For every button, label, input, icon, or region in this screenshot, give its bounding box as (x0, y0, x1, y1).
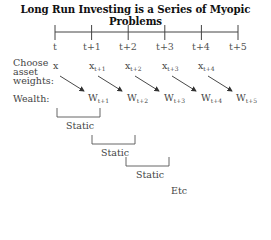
arrows (60, 76, 232, 91)
tick-label: t+2 (119, 41, 137, 52)
weights-label: weights: (13, 76, 54, 85)
weight-x: x (53, 60, 58, 72)
weight-x: xt+4 (198, 60, 215, 72)
tick-label: t+5 (229, 41, 247, 52)
static-label: Static (66, 120, 94, 131)
wealth-w: Wt+1 (88, 92, 109, 104)
timeline (55, 25, 238, 40)
wealth-w: Wt+3 (164, 92, 185, 104)
wealth-w: Wt+4 (201, 92, 222, 104)
tick-label: t+3 (156, 41, 174, 52)
static-label: Static (101, 147, 129, 158)
tick-label: t+1 (83, 41, 101, 52)
wealth-w: Wt+2 (127, 92, 148, 104)
weight-x: xt+1 (89, 60, 106, 72)
wealth-label: Wealth: (13, 94, 49, 103)
tick-label: t+4 (192, 41, 210, 52)
etc-label: Etc (171, 185, 187, 196)
weight-x: xt+2 (125, 60, 142, 72)
wealth-w: Wt+5 (236, 92, 257, 104)
static-label: Static (136, 169, 164, 180)
weight-x: xt+3 (162, 60, 179, 72)
tick-label: t (53, 41, 57, 52)
